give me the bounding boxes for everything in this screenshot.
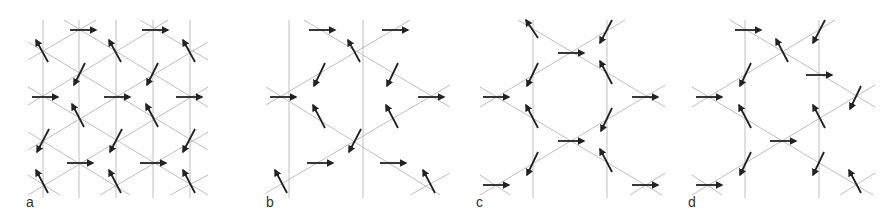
- kagome-lattice-diagram-b: [230, 0, 454, 223]
- panel-label-a: a: [26, 194, 34, 210]
- kagome-lattice-diagram-c: [460, 0, 680, 223]
- panel-d: d: [680, 0, 896, 223]
- panel-label-b: b: [266, 194, 274, 210]
- kagome-lattice-diagram-a: [0, 0, 224, 223]
- panel-a: a: [0, 0, 224, 223]
- panel-label-d: d: [688, 194, 696, 210]
- panel-c: c: [460, 0, 680, 223]
- panel-label-c: c: [476, 194, 483, 210]
- kagome-lattice-diagram-d: [680, 0, 896, 223]
- panel-b: b: [230, 0, 454, 223]
